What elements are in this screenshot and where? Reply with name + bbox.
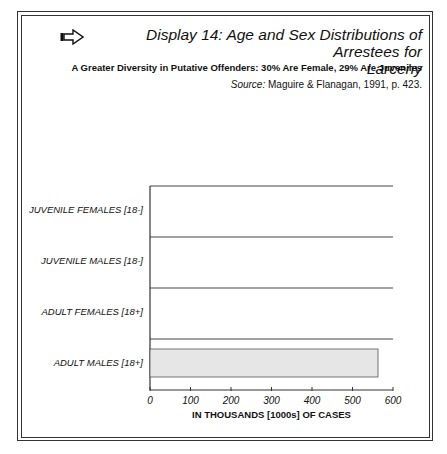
male-figure-icon	[219, 249, 230, 272]
male-figure-icon	[155, 249, 166, 272]
female-figure-icon	[155, 198, 166, 221]
x-tick-label: 400	[304, 395, 321, 406]
category-label: ADULT FEMALES [18+]	[42, 306, 143, 317]
female-figure-icon	[187, 198, 198, 221]
bar-juvenile-males-18	[155, 249, 247, 272]
male-figure-icon	[381, 351, 392, 374]
x-tick-label: 200	[223, 395, 240, 406]
male-figure-icon	[187, 249, 198, 272]
female-figure-icon	[252, 300, 263, 323]
female-figure-icon	[219, 300, 230, 323]
x-tick-label: 600	[385, 395, 402, 406]
x-tick-label: 300	[263, 395, 280, 406]
pictogram-chart	[0, 0, 447, 454]
male-figure-icon	[171, 249, 182, 272]
category-label: ADULT MALES [18+]	[54, 357, 143, 368]
bar-juvenile-females-18	[155, 198, 198, 221]
x-axis-title: IN THOUSANDS [1000s] OF CASES	[150, 409, 393, 420]
x-tick-label: 100	[182, 395, 199, 406]
female-figure-icon	[236, 300, 247, 323]
x-tick-label: 0	[147, 395, 153, 406]
bar-adult-females-18	[155, 300, 263, 323]
female-figure-icon	[187, 300, 198, 323]
female-figure-icon	[171, 198, 182, 221]
female-figure-icon	[203, 300, 214, 323]
female-figure-icon	[171, 300, 182, 323]
male-figure-icon	[236, 249, 247, 272]
x-tick-label: 500	[344, 395, 361, 406]
bar-adult-males-18	[150, 349, 392, 377]
category-label: JUVENILE FEMALES [18-]	[29, 204, 143, 215]
female-figure-icon	[155, 300, 166, 323]
category-label: JUVENILE MALES [18-]	[41, 255, 143, 266]
male-figure-icon	[203, 249, 214, 272]
